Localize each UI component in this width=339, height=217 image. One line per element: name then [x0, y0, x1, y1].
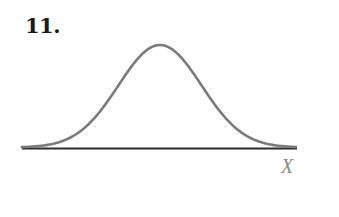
- normal-curve-figure: [0, 0, 339, 217]
- x-axis-label: X: [281, 155, 293, 178]
- bell-curve: [22, 45, 296, 147]
